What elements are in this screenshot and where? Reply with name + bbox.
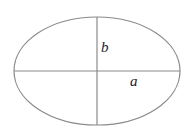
semi-minor-label: b <box>101 39 109 55</box>
ellipse-diagram: b a <box>0 0 189 137</box>
semi-major-label: a <box>130 73 138 89</box>
